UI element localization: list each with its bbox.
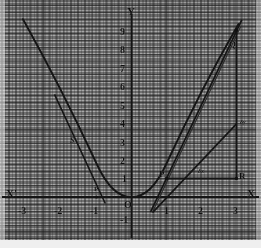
plot-canvas <box>0 0 261 248</box>
y-axis-label: Y <box>127 6 135 17</box>
point-marker-r <box>235 177 238 180</box>
x-tick-neg3: -3 <box>18 206 26 216</box>
y-tick-8: 8 <box>120 45 125 55</box>
point-label-q: Q <box>229 40 236 49</box>
point-label-p1: P₁ <box>94 186 100 193</box>
y-tick-neg1: -1 <box>120 215 128 225</box>
x-tick-3: 3 <box>233 206 238 216</box>
y-tick-1: 1 <box>122 174 127 184</box>
point-label-r: R <box>239 172 246 181</box>
graph-figure: Y X X' O 9 8 7 6 5 4 3 2 1 -1 -3 -2 -1 1… <box>0 0 261 248</box>
x-axis-label-right: X <box>247 188 255 199</box>
x-tick-neg2: -2 <box>54 206 62 216</box>
increment-label-dx: δx <box>198 168 204 174</box>
x-axis-label-left: X' <box>6 188 17 199</box>
secant-line-second <box>153 27 241 211</box>
y-tick-6: 6 <box>120 82 125 92</box>
point-marker-p <box>165 177 168 180</box>
y-tick-9: 9 <box>120 27 125 37</box>
y-tick-3: 3 <box>120 138 125 148</box>
point-marker-p1 <box>95 196 98 199</box>
origin-label: O <box>124 200 132 210</box>
y-tick-2: 2 <box>120 156 125 166</box>
y-tick-7: 7 <box>120 64 125 74</box>
y-tick-5: 5 <box>120 101 125 111</box>
point-label-p: P <box>159 170 165 179</box>
increment-label-dy: δy <box>240 119 246 125</box>
image-bottom-border <box>0 240 261 248</box>
curve-label-s: S <box>70 137 74 145</box>
y-tick-4: 4 <box>120 119 125 129</box>
x-tick-2: 2 <box>198 206 203 216</box>
x-tick-neg1: -1 <box>90 206 98 216</box>
x-tick-1: 1 <box>164 206 169 216</box>
point-marker-q <box>235 29 238 32</box>
